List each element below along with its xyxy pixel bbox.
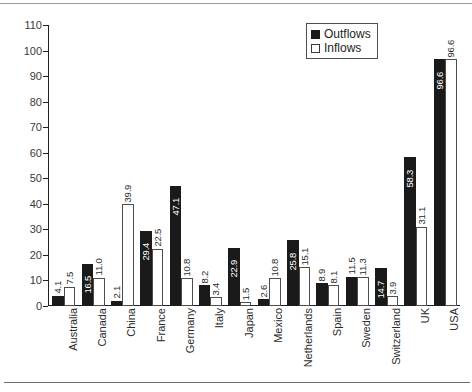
bar-inflows[interactable] [210,297,222,306]
x-axis-label-uk: UK [420,308,431,323]
chart-legend: Outflows Inflows [306,23,378,59]
y-axis-tick-label: 100 [24,46,42,57]
y-axis-tick-label: 40 [30,199,42,210]
bar-group: 22.91.5 [225,25,254,306]
y-axis-tick [43,51,48,52]
x-axis-label-japan: Japan [244,308,255,338]
bar-value-label: 11.5 [346,258,356,275]
y-axis-tick-label: 90 [30,71,42,82]
bar-group: 29.422.5 [137,25,166,306]
y-axis-tick-label: 80 [30,97,42,108]
bar-value-label: 8.1 [328,271,338,284]
bar-outflows[interactable] [287,240,299,306]
bar-value-label: 22.9 [229,260,239,278]
y-axis-tick [43,178,48,179]
bar-outflows[interactable] [346,277,358,306]
legend-label-inflows: Inflows [324,42,361,54]
filled-square-icon [311,30,320,39]
bar-value-label: 10.8 [182,259,192,277]
x-axis-label-switzerland: Switzerland [391,308,402,365]
bar-outflows[interactable] [434,59,446,306]
y-axis-tick [43,204,48,205]
bar-value-label: 10.8 [270,259,280,277]
y-axis-tick [43,102,48,103]
y-axis-tick-label: 110 [24,20,42,31]
bar-inflows[interactable] [445,59,457,306]
bar-value-label: 1.5 [240,288,250,301]
bar-inflows[interactable] [299,267,311,306]
bar-inflows[interactable] [269,278,281,306]
x-axis-category-labels: AustraliaCanadaChinaFranceGermanyItalyJa… [49,308,460,386]
bar-value-label: 58.3 [405,169,415,187]
bar-group: 96.696.6 [431,25,460,306]
chart-figure: 0102030405060708090100110 4.17.516.511.0… [0,0,472,392]
y-axis-tick-label: 50 [30,173,42,184]
bar-value-label: 2.6 [258,285,268,298]
y-axis-tick [43,255,48,256]
x-axis-label-mexico: Mexico [273,308,284,343]
y-axis-tick-label: 20 [30,250,42,261]
bar-group: 2.610.8 [255,25,284,306]
x-axis-label-netherlands: Netherlands [303,308,314,367]
bar-group: 8.23.4 [196,25,225,306]
x-axis-label-spain: Spain [332,308,343,336]
bar-value-label: 2.1 [111,286,121,299]
bar-inflows[interactable] [64,287,76,306]
bar-group: 16.511.0 [78,25,107,306]
x-axis-label-germany: Germany [185,308,196,353]
bar-inflows[interactable] [181,278,193,306]
bar-inflows[interactable] [357,277,369,306]
bar-value-label: 39.9 [123,184,133,202]
bar-value-label: 11.3 [358,258,368,275]
bar-outflows[interactable] [111,301,123,306]
y-axis-tick-label: 10 [30,275,42,286]
bar-inflows[interactable] [152,249,164,306]
legend-item-inflows: Inflows [311,41,371,55]
bar-value-label: 8.2 [199,270,209,283]
bar-inflows[interactable] [416,227,428,306]
bar-value-label: 25.8 [288,252,298,270]
bar-value-label: 3.9 [387,281,397,294]
bar-outflows[interactable] [258,299,270,306]
bar-value-label: 22.5 [152,229,162,247]
bar-group: 14.73.9 [372,25,401,306]
y-axis-tick [43,76,48,77]
bar-value-label: 4.1 [53,281,63,294]
x-axis-label-usa: USA [449,308,460,331]
bar-value-label: 3.4 [211,283,221,296]
bar-inflows[interactable] [328,285,340,306]
y-axis-tick-label: 70 [30,122,42,133]
bar-inflows[interactable] [387,296,399,306]
bar-inflows[interactable] [240,302,252,306]
bar-inflows[interactable] [93,278,105,306]
bar-value-label: 14.7 [376,281,386,299]
bar-group: 25.815.1 [284,25,313,306]
bar-outflows[interactable] [316,283,328,306]
bar-value-label: 7.5 [64,272,74,285]
bottom-divider [4,382,470,383]
y-axis-tick [43,229,48,230]
bar-value-label: 31.1 [416,207,426,225]
bar-value-label: 96.6 [434,72,444,90]
bar-outflows[interactable] [52,296,64,306]
bar-group: 11.511.3 [343,25,372,306]
y-axis-tick [43,306,48,307]
y-axis-tick-label: 60 [30,148,42,159]
x-axis-label-italy: Italy [214,308,225,328]
y-axis-tick-label: 30 [30,224,42,235]
y-axis-tick [43,153,48,154]
y-axis-tick [43,25,48,26]
x-axis-label-australia: Australia [68,308,79,351]
x-axis-label-sweden: Sweden [361,308,372,348]
bar-group: 2.139.9 [108,25,137,306]
bar-value-label: 8.9 [317,269,327,282]
x-axis-label-france: France [156,308,167,342]
bar-group: 4.17.5 [49,25,78,306]
bar-group: 8.98.1 [313,25,342,306]
y-axis-tick-labels: 0102030405060708090100110 [0,25,42,306]
bar-value-label: 29.4 [141,243,151,261]
bar-inflows[interactable] [122,204,134,306]
legend-label-outflows: Outflows [324,28,371,40]
bar-value-label: 16.5 [82,276,92,294]
x-axis-label-china: China [126,308,137,337]
